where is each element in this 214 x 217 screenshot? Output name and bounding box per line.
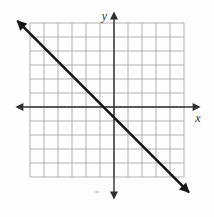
coordinate-plane-figure: yx [0, 0, 214, 217]
scan-smudge [94, 191, 99, 193]
grid-lines [30, 23, 184, 177]
y-axis-label: y [101, 9, 108, 23]
graph-canvas: yx [0, 0, 214, 217]
x-axis-label: x [194, 111, 201, 125]
